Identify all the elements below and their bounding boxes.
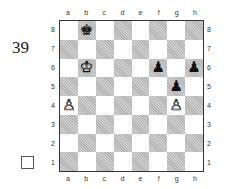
square-b7 [78, 40, 96, 59]
square-e5 [132, 77, 150, 96]
square-f8 [149, 21, 167, 40]
white-pawn-icon: ♙ [169, 98, 182, 113]
square-h7 [185, 40, 203, 59]
square-c7 [96, 40, 114, 59]
rank-label: 4 [207, 96, 211, 115]
square-d6 [114, 59, 132, 78]
square-d1 [114, 152, 132, 171]
rank-label: 5 [207, 77, 211, 96]
square-h4 [185, 96, 203, 115]
square-c8 [96, 21, 114, 40]
square-c4 [96, 96, 114, 115]
file-label: c [95, 175, 113, 182]
black-king-icon: ♚ [80, 23, 93, 38]
square-c5 [96, 77, 114, 96]
square-e6 [132, 59, 150, 78]
file-label: e [132, 9, 150, 16]
rank-label: 1 [51, 153, 55, 172]
square-d7 [114, 40, 132, 59]
square-h1 [185, 152, 203, 171]
square-a6 [60, 59, 78, 78]
rank-label: 2 [207, 134, 211, 153]
square-g8 [167, 21, 185, 40]
square-e3 [132, 115, 150, 134]
rank-label: 7 [51, 39, 55, 58]
square-b5 [78, 77, 96, 96]
rank-label: 6 [51, 58, 55, 77]
file-label: d [113, 9, 131, 16]
rank-label: 6 [207, 58, 211, 77]
square-a2 [60, 134, 78, 153]
square-d4 [114, 96, 132, 115]
square-g3 [167, 115, 185, 134]
file-label: e [132, 175, 150, 182]
file-label: f [150, 9, 168, 16]
file-label: f [150, 175, 168, 182]
rank-label: 3 [51, 115, 55, 134]
square-f7 [149, 40, 167, 59]
square-c1 [96, 152, 114, 171]
square-f6: ♟ [149, 59, 167, 78]
file-label: d [113, 175, 131, 182]
square-b1 [78, 152, 96, 171]
square-b3 [78, 115, 96, 134]
black-pawn-icon: ♟ [169, 79, 182, 94]
square-f1 [149, 152, 167, 171]
rank-label: 8 [51, 20, 55, 39]
square-h2 [185, 134, 203, 153]
rank-labels-right: 8 7 6 5 4 3 2 1 [207, 20, 211, 172]
square-e8 [132, 21, 150, 40]
chess-board: ♚♔♟♟♟♙♙ [59, 20, 204, 172]
square-b4 [78, 96, 96, 115]
square-e7 [132, 40, 150, 59]
square-e2 [132, 134, 150, 153]
square-f5 [149, 77, 167, 96]
rank-label: 5 [51, 77, 55, 96]
square-e4 [132, 96, 150, 115]
file-label: b [77, 175, 95, 182]
square-d2 [114, 134, 132, 153]
square-a7 [60, 40, 78, 59]
file-label: a [59, 175, 77, 182]
rank-label: 2 [51, 134, 55, 153]
black-pawn-icon: ♟ [187, 60, 200, 75]
square-f2 [149, 134, 167, 153]
square-a3 [60, 115, 78, 134]
square-h3 [185, 115, 203, 134]
black-pawn-icon: ♟ [152, 60, 165, 75]
square-g4: ♙ [167, 96, 185, 115]
square-d8 [114, 21, 132, 40]
white-pawn-icon: ♙ [62, 98, 75, 113]
square-g5: ♟ [167, 77, 185, 96]
square-b8: ♚ [78, 21, 96, 40]
square-g7 [167, 40, 185, 59]
file-label: a [59, 9, 77, 16]
square-e1 [132, 152, 150, 171]
file-label: g [168, 9, 186, 16]
file-labels-bottom: a b c d e f g h [59, 175, 204, 182]
file-label: h [186, 9, 204, 16]
square-b6: ♔ [78, 59, 96, 78]
square-h6: ♟ [185, 59, 203, 78]
square-a1 [60, 152, 78, 171]
square-c3 [96, 115, 114, 134]
square-g1 [167, 152, 185, 171]
square-g2 [167, 134, 185, 153]
rank-label: 4 [51, 96, 55, 115]
square-h8 [185, 21, 203, 40]
square-a4: ♙ [60, 96, 78, 115]
square-c6 [96, 59, 114, 78]
file-label: b [77, 9, 95, 16]
rank-labels-left: 8 7 6 5 4 3 2 1 [51, 20, 55, 172]
square-h5 [185, 77, 203, 96]
rank-label: 7 [207, 39, 211, 58]
white-king-icon: ♔ [80, 60, 93, 75]
file-labels-top: a b c d e f g h [59, 9, 204, 16]
square-d3 [114, 115, 132, 134]
square-d5 [114, 77, 132, 96]
square-g6 [167, 59, 185, 78]
file-label: c [95, 9, 113, 16]
diagram-number: 39 [12, 38, 29, 58]
square-f4 [149, 96, 167, 115]
rank-label: 8 [207, 20, 211, 39]
